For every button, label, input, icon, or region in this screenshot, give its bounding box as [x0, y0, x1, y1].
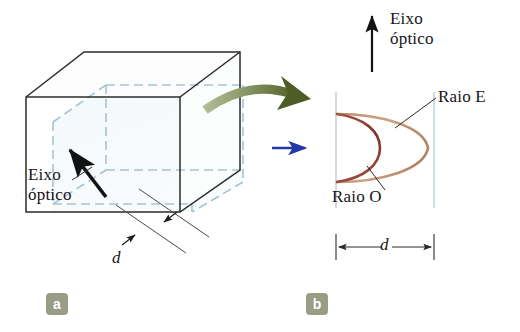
thickness-arrow-upper	[164, 212, 177, 222]
panel-b-optical-axis-label-2: óptico	[390, 30, 434, 48]
wavefront-ray-e	[337, 114, 428, 182]
ray-e-label: Raio E	[438, 88, 486, 106]
panel-b-thickness-label: d	[380, 236, 389, 254]
panel-a-optical-axis-label: Eixo	[28, 166, 61, 184]
wavefront-ray-o	[337, 114, 380, 182]
panel-a-thickness-label: d	[112, 249, 121, 267]
panel-b-badge: b	[306, 293, 328, 315]
panel-a-optical-axis-label-2: óptico	[28, 186, 72, 204]
figure-canvas	[0, 0, 520, 332]
panel-a-badge: a	[46, 293, 68, 315]
panel-a-crystal-block	[26, 52, 311, 253]
panel-b-wavefronts	[272, 16, 436, 260]
ray-o-label: Raio O	[332, 188, 382, 206]
ray-e-leader-line	[395, 98, 436, 128]
optics-figure: Eixo óptico d Eixo óptico Raio E Raio O …	[0, 0, 520, 332]
thickness-arrow-lower	[122, 235, 135, 245]
panel-b-optical-axis-label: Eixo	[390, 10, 423, 28]
